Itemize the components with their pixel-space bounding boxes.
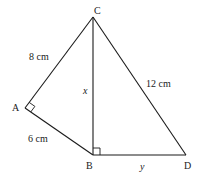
right-angle-marker-b [93, 148, 100, 155]
vertex-label-b: B [86, 160, 93, 171]
segment-label-cb: x [82, 85, 88, 96]
segment-label-ab: 6 cm [28, 133, 48, 144]
right-angle-marker-a [29, 102, 35, 112]
segment-label-cd: 12 cm [146, 78, 171, 89]
segment-cd [93, 17, 186, 155]
segment-label-ac: 8 cm [29, 51, 49, 62]
vertex-label-d: D [184, 160, 191, 171]
vertex-label-c: C [94, 5, 101, 16]
vertex-label-a: A [12, 102, 20, 113]
segment-ab [25, 108, 93, 155]
segment-label-bd: y [139, 161, 145, 172]
geometry-diagram: C A B D 8 cm 6 cm x 12 cm y [0, 0, 205, 180]
